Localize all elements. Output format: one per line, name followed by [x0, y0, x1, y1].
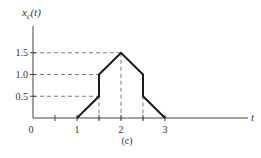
- y-tick-label: 1.0: [16, 69, 29, 80]
- y-tick-label: 1.5: [16, 47, 29, 58]
- x-tick-label: 3: [163, 124, 168, 135]
- y-axis-label: xc(t): [21, 6, 41, 21]
- dashed-guides: [33, 53, 143, 122]
- origin-label: 0: [29, 124, 34, 135]
- x-tick-label: 1: [75, 124, 80, 135]
- figure-caption: (c): [121, 135, 132, 147]
- x-tick-label: 2: [119, 124, 124, 135]
- signal-plot: 1230.51.01.5 xc(t) t 0 (c): [0, 0, 261, 158]
- x-axis-label: t: [251, 111, 255, 123]
- ticks: 1230.51.01.5: [16, 47, 168, 135]
- y-tick-label: 0.5: [16, 91, 29, 102]
